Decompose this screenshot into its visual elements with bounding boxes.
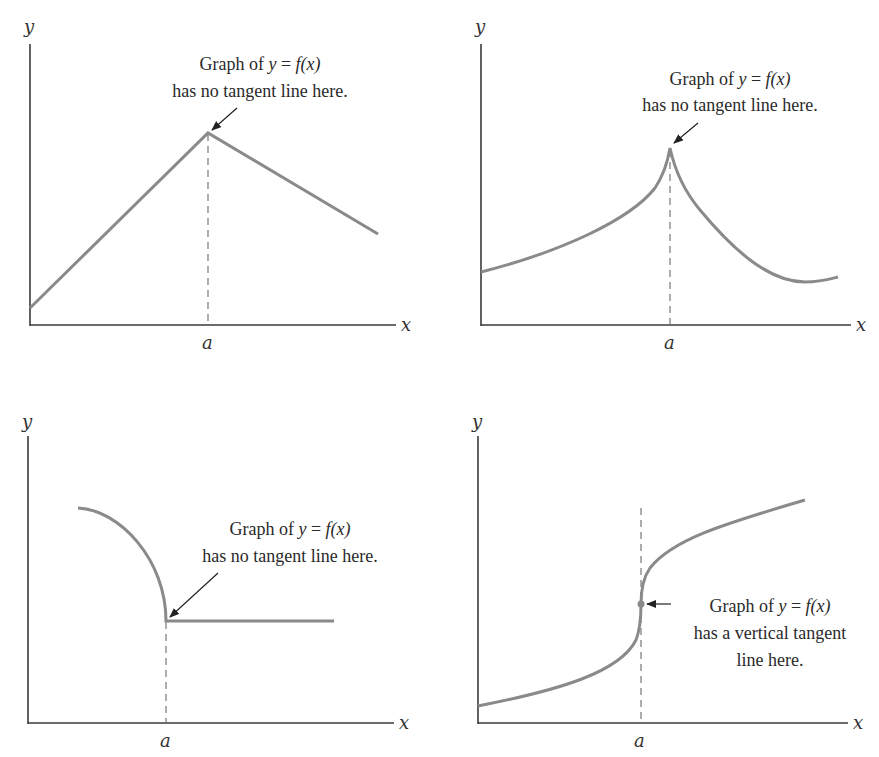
annotation-line-1: Graph of y = f(x)	[709, 596, 830, 617]
x-axis-label: x	[399, 712, 409, 733]
annotation-line-2: has a vertical tangent	[694, 623, 846, 643]
graph-curve	[30, 133, 378, 308]
x-axis-label: x	[853, 712, 863, 733]
annotation-line-1: Graph of y = f(x)	[199, 54, 320, 75]
panel-corner: y x a Graph of y = f(x) has no tangent l…	[23, 16, 411, 353]
annotation-line-2: has no tangent line here.	[202, 546, 377, 566]
y-axis-label: y	[23, 16, 35, 37]
panel-endpoint: y x a Graph of y = f(x) has no tangent l…	[21, 411, 409, 751]
a-tick-label: a	[202, 332, 213, 353]
a-tick-label: a	[664, 332, 675, 353]
a-tick-label: a	[634, 730, 645, 751]
x-axis-label: x	[856, 314, 866, 335]
tangent-line-diagram: y x a Graph of y = f(x) has no tangent l…	[0, 0, 879, 757]
annotation-line-1: Graph of y = f(x)	[669, 69, 790, 90]
tangent-point-dot	[638, 601, 645, 608]
annotation-line-1: Graph of y = f(x)	[229, 519, 350, 540]
annotation-arrow-icon	[170, 573, 218, 617]
y-axis-label: y	[474, 16, 486, 37]
y-axis-label: y	[21, 411, 33, 432]
annotation-line-2: has no tangent line here.	[642, 95, 817, 115]
annotation-line-3: line here.	[737, 650, 804, 670]
x-axis-label: x	[401, 314, 411, 335]
y-axis-label: y	[471, 411, 483, 432]
panel-vertical-tangent: y x a Graph of y = f(x) has a vertical t…	[471, 411, 863, 751]
annotation-arrow-icon	[212, 108, 237, 130]
annotation-arrow-icon	[674, 123, 698, 143]
panel-cusp: y x a Graph of y = f(x) has no tangent l…	[474, 16, 866, 353]
a-tick-label: a	[160, 730, 171, 751]
annotation-line-2: has no tangent line here.	[172, 81, 347, 101]
graph-curve	[481, 148, 838, 282]
